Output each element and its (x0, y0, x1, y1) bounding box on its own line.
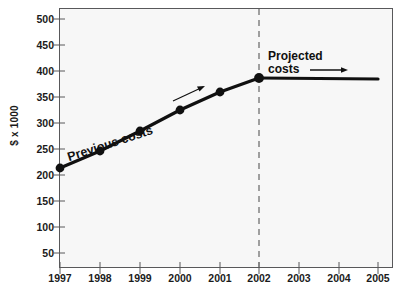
data-point-2000 (176, 106, 185, 115)
annotation-projected-costs-line1: Projected (268, 50, 323, 63)
previous-costs-arrow-icon (173, 86, 205, 101)
x-axis-ticks (60, 262, 378, 274)
data-point-2002 (254, 73, 264, 83)
chart-vector-layer (0, 0, 403, 295)
chart-container: $ x 1000 500 450 400 350 300 250 200 150… (0, 0, 403, 295)
annotation-projected-costs: Projected costs (268, 50, 323, 77)
data-point-2001 (216, 88, 225, 97)
series-line-projected-costs (259, 78, 378, 79)
data-point-1997 (56, 164, 65, 173)
y-axis-ticks (53, 19, 65, 253)
annotation-projected-costs-line2: costs (268, 63, 323, 76)
